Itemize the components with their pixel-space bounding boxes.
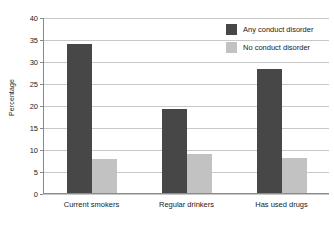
y-axis-title: Percentage — [2, 0, 20, 195]
legend-label: No conduct disorder — [243, 43, 310, 52]
bar-chart: Percentage 0510152025303540 Current smok… — [0, 0, 334, 232]
y-tick-label: 35 — [30, 36, 38, 45]
legend-swatch — [226, 42, 237, 53]
legend-entry: Any conduct disorder — [226, 24, 313, 35]
y-tick-label: 5 — [34, 168, 38, 177]
x-axis-label: Current smokers — [64, 200, 119, 209]
bar — [92, 159, 117, 193]
y-tick-label: 20 — [30, 102, 38, 111]
bar — [67, 44, 92, 193]
bar — [162, 109, 187, 193]
bar — [282, 158, 307, 193]
y-tick-label: 30 — [30, 58, 38, 67]
y-tick-label: 25 — [30, 80, 38, 89]
y-tick-label: 10 — [30, 146, 38, 155]
bar — [187, 154, 212, 193]
legend-entry: No conduct disorder — [226, 42, 313, 53]
gridline — [43, 194, 329, 195]
x-axis-label: Regular drinkers — [159, 200, 214, 209]
legend-swatch — [226, 24, 237, 35]
bar — [257, 69, 282, 193]
bar-group — [67, 18, 117, 193]
y-tick-label: 15 — [30, 124, 38, 133]
y-tick-label: 0 — [34, 190, 38, 199]
y-tick-mark — [40, 194, 43, 195]
legend: Any conduct disorderNo conduct disorder — [226, 24, 313, 60]
y-tick-label: 40 — [30, 14, 38, 23]
y-axis-title-label: Percentage — [8, 79, 15, 116]
legend-label: Any conduct disorder — [243, 25, 313, 34]
x-axis-label: Has used drugs — [255, 200, 308, 209]
bar-group — [162, 18, 212, 193]
x-axis-line — [43, 193, 329, 194]
